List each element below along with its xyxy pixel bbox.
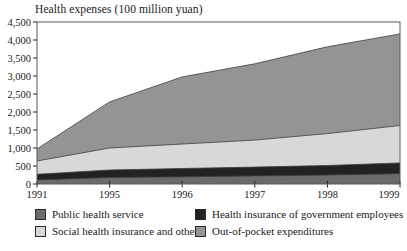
y-axis-label-0: 0 [26, 179, 31, 190]
y-axis-label-2,000: 2,000 [7, 107, 31, 118]
figure: Health expenses (100 million yuan) 05001… [0, 0, 407, 251]
y-axis-label-1,500: 1,500 [7, 125, 31, 136]
y-axis-label-4,500: 4,500 [7, 17, 31, 28]
legend-swatch-government-employees-insurance [195, 209, 206, 220]
legend-item-public-health-service: Public health service [35, 208, 195, 221]
x-axis-label-1995: 1995 [99, 189, 120, 200]
legend-swatch-public-health-service [35, 209, 46, 220]
y-axis-label-3,500: 3,500 [7, 53, 31, 64]
legend-item-social-health-insurance: Social health insurance and others [35, 225, 195, 238]
legend-label-out-of-pocket: Out-of-pocket expenditures [212, 225, 333, 238]
x-axis-label-1999: 1999 [379, 189, 400, 200]
legend-swatch-social-health-insurance [35, 226, 46, 237]
x-axis-label-1998: 1998 [317, 189, 338, 200]
y-axis-label-1,000: 1,000 [7, 143, 31, 154]
y-axis-label-2,500: 2,500 [7, 89, 31, 100]
x-axis-label-1991: 1991 [27, 189, 48, 200]
y-axis-label-4,000: 4,000 [7, 35, 31, 46]
legend-label-social-health-insurance: Social health insurance and others [52, 225, 202, 238]
legend-label-government-employees-insurance: Health insurance of government employees [212, 208, 403, 221]
legend-item-out-of-pocket: Out-of-pocket expenditures [195, 225, 405, 238]
legend: Public health service Health insurance o… [35, 208, 405, 238]
y-axis-label-500: 500 [15, 161, 31, 172]
x-axis-label-1996: 1996 [172, 189, 193, 200]
legend-label-public-health-service: Public health service [52, 208, 144, 221]
legend-swatch-out-of-pocket [195, 226, 206, 237]
y-axis-label-3,000: 3,000 [7, 71, 31, 82]
legend-item-government-employees-insurance: Health insurance of government employees [195, 208, 405, 221]
x-axis-label-1997: 1997 [244, 189, 265, 200]
